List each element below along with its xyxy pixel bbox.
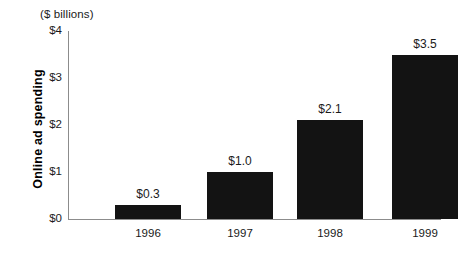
bar — [297, 120, 363, 219]
bar-group: $1.0 — [207, 31, 273, 219]
bar-value-label: $3.5 — [378, 37, 462, 51]
bar — [392, 55, 458, 220]
bar-group: $2.1 — [297, 31, 363, 219]
y-axis-tick: $0 — [30, 212, 62, 226]
y-axis-tick: $2 — [30, 118, 62, 132]
y-axis-tick-label: $0 — [30, 212, 62, 224]
bar — [207, 172, 273, 219]
x-axis-line — [68, 219, 441, 220]
y-axis-tick-label: $4 — [30, 24, 62, 36]
x-axis-tick-label: 1999 — [378, 227, 462, 239]
y-axis-tick-label: $3 — [30, 71, 62, 83]
y-axis-tick: $3 — [30, 71, 62, 85]
bar-group: $0.3 — [115, 31, 181, 219]
y-axis-tick: $1 — [30, 165, 62, 179]
y-axis-tick-label: $1 — [30, 165, 62, 177]
x-axis-tick-label: 1997 — [193, 227, 287, 239]
bar-value-label: $1.0 — [193, 154, 287, 168]
chart-unit-caption: ($ billions) — [40, 8, 94, 20]
y-axis-tick-label: $2 — [30, 118, 62, 130]
y-axis-tick: $4 — [30, 24, 62, 38]
bar-group: $3.5 — [392, 31, 458, 219]
x-axis-tick-label: 1996 — [101, 227, 195, 239]
plot-area: $0.3$1.0$2.1$3.5 — [69, 31, 441, 219]
bar-value-label: $0.3 — [101, 187, 195, 201]
bar-value-label: $2.1 — [283, 102, 377, 116]
x-axis-tick-label: 1998 — [283, 227, 377, 239]
bar — [115, 205, 181, 219]
